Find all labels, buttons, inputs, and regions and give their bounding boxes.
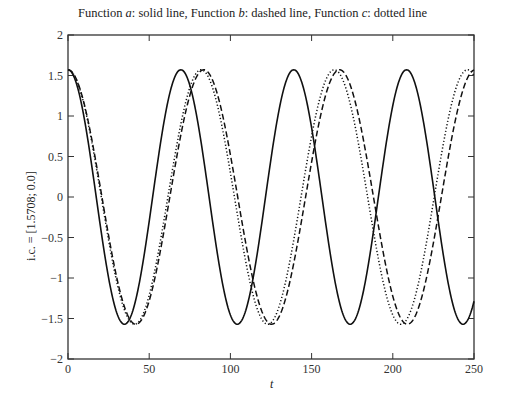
x-tick-label: 50 (143, 362, 155, 376)
plot-frame (68, 35, 474, 359)
x-axis-label: t (270, 377, 273, 392)
series-solid-line (68, 70, 474, 324)
x-tick-label: 0 (65, 362, 71, 376)
y-tick-label: 0 (57, 190, 63, 204)
y-tick-label: −1.5 (41, 312, 63, 326)
y-tick-label: −2 (50, 352, 63, 366)
x-tick-label: 250 (465, 362, 483, 376)
y-tick-label: 1.5 (48, 69, 63, 83)
x-tick-label: 150 (303, 362, 321, 376)
line-chart: 050100150200250−2−1.5−1−0.500.511.52 (0, 0, 505, 407)
y-tick-label: 2 (57, 28, 63, 42)
y-axis-label: i.c. = [1.5708; 0.0] (24, 171, 39, 261)
series-dashed-line (68, 70, 474, 324)
y-tick-label: 0.5 (48, 150, 63, 164)
y-tick-label: −1 (50, 271, 63, 285)
series-dotted-line (68, 70, 474, 324)
x-tick-label: 200 (384, 362, 402, 376)
y-tick-label: −0.5 (41, 231, 63, 245)
y-tick-label: 1 (57, 109, 63, 123)
x-tick-label: 100 (221, 362, 239, 376)
